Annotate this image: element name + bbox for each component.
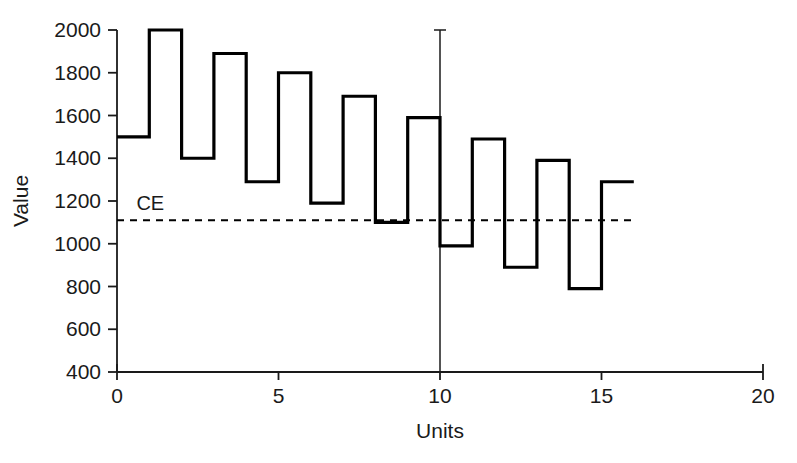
y-tick-label: 1000 [54, 232, 101, 255]
y-tick-label: 600 [66, 317, 101, 340]
y-tick-label: 1400 [54, 146, 101, 169]
y-tick-label: 1600 [54, 104, 101, 127]
y-tick-label: 800 [66, 275, 101, 298]
x-tick-label: 20 [751, 384, 774, 407]
y-tick-label: 1800 [54, 61, 101, 84]
x-axis-title: Units [416, 419, 464, 442]
x-tick-label: 10 [428, 384, 451, 407]
y-axis-tick-labels: 400600800100012001400160018002000 [54, 18, 101, 383]
x-tick-label: 5 [273, 384, 285, 407]
y-tick-label: 1200 [54, 189, 101, 212]
x-tick-label: 15 [590, 384, 613, 407]
y-tick-label: 400 [66, 360, 101, 383]
y-tick-label: 2000 [54, 18, 101, 41]
y-axis-title: Value [9, 175, 32, 227]
step-chart-plot: 400600800100012001400160018002000 051015… [0, 0, 797, 463]
ce-reference-label: CE [136, 192, 164, 214]
x-axis-tick-labels: 05101520 [111, 384, 775, 407]
y-axis-tick-marks [108, 30, 117, 372]
chart-figure: 400600800100012001400160018002000 051015… [0, 0, 797, 463]
x-tick-label: 0 [111, 384, 123, 407]
step-series-path [117, 30, 634, 289]
